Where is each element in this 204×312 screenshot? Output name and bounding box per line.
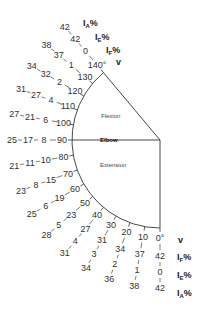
flexion-impairment-value: 37 — [135, 249, 145, 259]
ankylosis-impairment-value: 34 — [81, 263, 91, 273]
angle-value: 30 — [106, 220, 116, 230]
connector-line — [141, 242, 142, 248]
ankylosis-impairment-value: 21 — [9, 161, 19, 171]
connector-line — [20, 115, 24, 116]
flexion-label: Flexion — [101, 113, 120, 119]
flexion-impairment-value: 34 — [115, 244, 125, 254]
connector-line — [97, 246, 99, 249]
connector-line — [37, 209, 40, 211]
arc-tick — [101, 70, 104, 73]
connector-line — [20, 164, 24, 165]
extension-impairment-value: 2 — [112, 259, 117, 269]
extension-impairment-value: 4 — [73, 236, 78, 246]
connector-line — [36, 118, 40, 119]
connector-line — [42, 97, 46, 98]
ankylosis-impairment-value: 27 — [9, 109, 19, 119]
angle-value: 130 — [77, 72, 92, 82]
connector-line — [57, 176, 63, 178]
ankylosis-impairment-value: 23 — [16, 186, 26, 196]
connector-line — [79, 43, 82, 46]
column-header: IE% — [177, 270, 192, 281]
flexion-impairment-value: 42 — [155, 251, 165, 261]
arc-tick — [129, 223, 130, 227]
connector-line — [111, 270, 112, 274]
angle-value: 10 — [138, 232, 148, 242]
angle-value: 140° — [88, 60, 107, 70]
connector-line — [51, 229, 54, 232]
angle-value: 120 — [68, 86, 83, 96]
column-header: v — [178, 235, 183, 245]
flexion-limit-line — [103, 73, 160, 140]
flexion-impairment-value: 23 — [66, 210, 76, 220]
arc-tick — [69, 155, 73, 156]
flexion-impairment-value: 4 — [48, 95, 53, 105]
column-header: IA% — [177, 288, 192, 299]
arc-tick — [80, 184, 83, 186]
extension-impairment-value: 0 — [157, 267, 162, 277]
connector-line — [63, 59, 66, 62]
extension-impairment-value: 17 — [23, 135, 33, 145]
connector-line — [135, 276, 136, 280]
angle-value: 50 — [80, 198, 90, 208]
ankylosis-impairment-value: 34 — [27, 61, 37, 71]
angle-value: 110 — [61, 101, 75, 111]
angle-value: 20 — [121, 227, 131, 237]
flexion-impairment-value: 15 — [46, 175, 56, 185]
column-header: IE% — [95, 32, 110, 43]
arc-tick — [90, 197, 93, 200]
ankylosis-impairment-value: 31 — [16, 84, 26, 94]
flexion-impairment-value: 27 — [80, 224, 90, 234]
ankylosis-impairment-value: 31 — [60, 248, 70, 258]
connector-line — [138, 260, 139, 264]
flexion-impairment-value: 0 — [83, 46, 88, 56]
ankylosis-impairment-value: 42 — [60, 22, 70, 32]
extension-impairment-value: 27 — [31, 90, 41, 100]
column-header: IA% — [83, 18, 98, 29]
extension-label: Extension — [100, 162, 126, 168]
connector-line — [36, 161, 40, 162]
arc-tick — [74, 170, 78, 171]
angle-value: 70 — [63, 169, 73, 179]
extension-impairment-value: 21 — [25, 112, 35, 122]
connector-line — [42, 182, 46, 183]
ankylosis-impairment-value: 25 — [7, 135, 17, 145]
angle-value: 0° — [156, 233, 165, 243]
ankylosis-impairment-value: 38 — [42, 40, 52, 50]
extension-impairment-value: 11 — [25, 158, 34, 168]
ankylosis-impairment-value: 38 — [129, 281, 139, 291]
angle-value: 80 — [58, 152, 68, 162]
connector-line — [117, 255, 118, 259]
elbow-label: Elbow — [100, 137, 118, 143]
ankylosis-impairment-value: 25 — [27, 209, 37, 219]
connector-line — [51, 77, 54, 79]
elbow-rom-diagram: Flexion Elbow Extension 140°042421301373… — [0, 0, 204, 312]
flexion-impairment-value: 10 — [41, 155, 51, 165]
extension-impairment-value: 6 — [43, 201, 48, 211]
column-headers-bottom: vIF%IE%IA% — [177, 235, 192, 299]
connector-line — [27, 187, 31, 188]
scale-labels: 140°042421301373812023234110427311006212… — [7, 22, 165, 293]
flexion-impairment-value: 6 — [43, 115, 48, 125]
extension-impairment-value: 5 — [56, 220, 61, 230]
column-header: v — [116, 57, 121, 67]
connector-line — [52, 158, 58, 159]
flexion-impairment-value: 8 — [41, 135, 46, 145]
flexion-impairment-value: 2 — [57, 77, 62, 87]
column-header: IF% — [106, 45, 120, 56]
connector-line — [79, 233, 82, 236]
column-header: IF% — [177, 252, 191, 263]
flexion-impairment-value: 1 — [69, 60, 74, 70]
extension-impairment-value: 37 — [54, 50, 64, 60]
connector-line — [122, 238, 124, 244]
angle-value: 90 — [57, 135, 67, 145]
flexion-impairment-value: 19 — [55, 193, 65, 203]
angle-value: 40 — [92, 210, 102, 220]
extension-impairment-value: 1 — [135, 265, 140, 275]
extension-impairment-value: 3 — [91, 249, 96, 259]
extension-impairment-value: 32 — [41, 69, 51, 79]
ankylosis-impairment-value: 36 — [104, 274, 114, 284]
arc-tick — [144, 227, 145, 231]
angle-value: 60 — [70, 184, 80, 194]
ankylosis-impairment-value: 28 — [42, 230, 52, 240]
ankylosis-impairment-value: 42 — [155, 283, 165, 293]
